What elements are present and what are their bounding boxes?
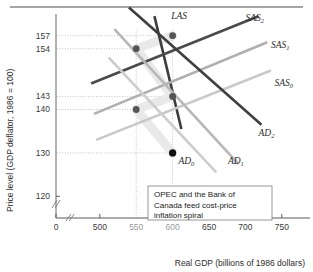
x-tick-label-600: 600	[166, 222, 180, 232]
x-axis-title: Real GDP (billions of 1986 dollars)	[175, 258, 305, 268]
eq-140-550	[133, 106, 140, 113]
x-tick-label-650: 650	[202, 222, 216, 232]
y-tick-label-154: 154	[36, 44, 50, 54]
x-tick-label-0: 0	[54, 222, 59, 232]
eq-154-550	[133, 45, 140, 52]
eq-130-600	[169, 149, 176, 156]
x-tick-label-700: 700	[238, 222, 252, 232]
x-tick-label-750: 750	[275, 222, 289, 232]
y-axis-title: Price level (GDP deflator, 1986 = 100)	[5, 69, 15, 212]
y-tick-label-120: 120	[36, 191, 50, 201]
ad-as-chart: LASSAS0SAS1SAS2AD0AD1AD2 050055060065070…	[0, 0, 313, 272]
figure-container: LASSAS0SAS1SAS2AD0AD1AD2 050055060065070…	[0, 0, 313, 272]
y-tick-label-157: 157	[36, 31, 50, 41]
eq-143-600	[169, 93, 176, 100]
eq-157-600	[169, 32, 176, 39]
y-tick-label-130: 130	[36, 148, 50, 158]
curve-label-las: LAS	[170, 11, 187, 21]
annotation-layer: OPEC and the Bank ofCanada feed cost-pri…	[148, 186, 272, 220]
annotation-line-3: inflation spiral	[154, 211, 203, 220]
annotation-line-2: Canada feed cost-price	[154, 201, 237, 210]
y-tick-label-140: 140	[36, 104, 50, 114]
annotation-line-1: OPEC and the Bank of	[154, 190, 236, 199]
x-tick-label-550: 550	[129, 222, 143, 232]
y-tick-label-143: 143	[36, 91, 50, 101]
x-tick-label-500: 500	[93, 222, 107, 232]
